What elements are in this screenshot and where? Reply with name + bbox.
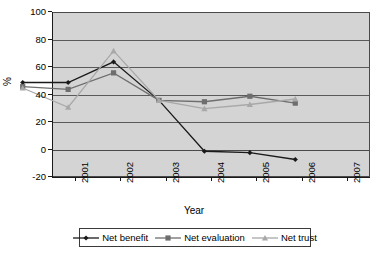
x-tick-mark [166, 177, 167, 181]
legend-item: Net evaluation [155, 233, 245, 243]
y-tick-mark [48, 176, 52, 177]
y-tick-mark [48, 94, 52, 95]
legend-swatch-triangle-icon [252, 233, 278, 243]
y-tick-label: 100 [6, 7, 46, 16]
y-tick-label: 0 [6, 145, 46, 154]
x-tick-label: 2002 [125, 162, 135, 183]
x-tick-mark [347, 177, 348, 181]
y-tick-mark [48, 39, 52, 40]
chart-legend: Net benefitNet evaluationNet trust [79, 228, 311, 247]
legend-label: Net benefit [102, 233, 148, 243]
y-tick-mark [48, 11, 52, 12]
y-tick-label: 60 [6, 62, 46, 71]
legend-label: Net trust [281, 233, 317, 243]
x-tick-mark [256, 177, 257, 181]
x-tick-mark [302, 177, 303, 181]
legend-swatch-diamond-icon [73, 233, 99, 243]
y-tick-label: 80 [6, 35, 46, 44]
y-tick-mark [48, 66, 52, 67]
x-tick-mark [211, 177, 212, 181]
y-tick-mark [48, 121, 52, 122]
legend-swatch-square-icon [155, 233, 181, 243]
x-tick-mark [75, 177, 76, 181]
x-tick-label: 2005 [261, 162, 271, 183]
series-layer [0, 0, 318, 165]
x-tick-mark [120, 177, 121, 181]
y-tick-mark [48, 149, 52, 150]
y-tick-label: 40 [6, 90, 46, 99]
x-tick-label: 2007 [352, 162, 362, 183]
legend-label: Net evaluation [184, 233, 245, 243]
legend-item: Net benefit [73, 233, 148, 243]
line-chart: % Year Net benefitNet evaluationNet trus… [0, 0, 388, 259]
y-tick-label: 20 [6, 117, 46, 126]
series-net-trust [20, 48, 299, 111]
x-tick-label: 2004 [216, 162, 226, 183]
x-tick-label: 2006 [307, 162, 317, 183]
x-tick-label: 2003 [171, 162, 181, 183]
y-tick-label: -20 [6, 172, 46, 181]
series-net-benefit [20, 59, 298, 162]
x-tick-label: 2001 [80, 162, 90, 183]
x-axis-title: Year [0, 205, 388, 216]
legend-item: Net trust [252, 233, 317, 243]
